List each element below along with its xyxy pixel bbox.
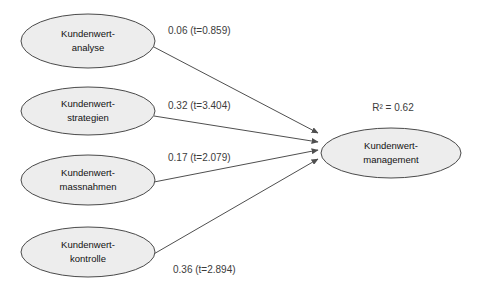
node-label-kundenwertanalyse-line2: analyse (72, 42, 105, 53)
path-coefficient-label-massnahmen: 0.17 (t=2.079) (168, 152, 231, 163)
path-diagram: Kundenwert- analyse Kundenwert- strategi… (0, 0, 481, 299)
construct-node-kundenwertmassnahmen[interactable]: Kundenwert- massnahmen (21, 155, 155, 205)
node-label-kundenwertmanagement-line2: management (363, 154, 419, 165)
construct-node-kundenwertstrategien[interactable]: Kundenwert- strategien (21, 87, 155, 135)
path-coefficient-label-kontrolle: 0.36 (t=2.894) (173, 264, 236, 275)
construct-node-kundenwertanalyse[interactable]: Kundenwert- analyse (21, 14, 155, 68)
node-label-kundenwertanalyse-line1: Kundenwert- (61, 28, 115, 39)
node-label-kundenwertkontrolle-line2: kontrolle (70, 253, 106, 264)
diagram-canvas: Kundenwert- analyse Kundenwert- strategi… (0, 0, 481, 299)
node-label-kundenwertmassnahmen-line2: massnahmen (59, 181, 116, 192)
path-coefficient-label-analyse: 0.06 (t=0.859) (168, 25, 231, 36)
node-label-kundenwertstrategien-line2: strategien (67, 112, 109, 123)
node-label-kundenwertmassnahmen-line1: Kundenwert- (61, 167, 115, 178)
path-arrows (152, 46, 318, 255)
construct-node-kundenwertkontrolle[interactable]: Kundenwert- kontrolle (21, 227, 155, 277)
path-arrow-kontrolle (152, 159, 318, 255)
node-label-kundenwertmanagement-line1: Kundenwert- (364, 140, 418, 151)
r-squared-label: R² = 0.62 (372, 102, 414, 113)
node-label-kundenwertkontrolle-line1: Kundenwert- (61, 239, 115, 250)
node-label-kundenwertstrategien-line1: Kundenwert- (61, 98, 115, 109)
path-coefficient-label-strategien: 0.32 (t=3.404) (168, 100, 231, 111)
construct-node-kundenwertmanagement[interactable]: Kundenwert- management (321, 128, 461, 178)
